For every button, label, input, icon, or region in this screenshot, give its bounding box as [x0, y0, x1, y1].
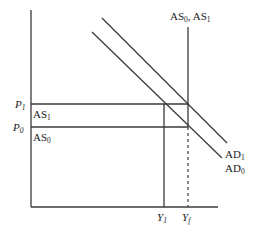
as0-label: AS0: [33, 131, 51, 145]
ad-as-diagram: P1 P0 AS1 AS0 AS0, AS1 AD1 AD0 Y1 Yf: [0, 0, 260, 234]
p1-label: P1: [14, 98, 25, 112]
ad0-label: AD0: [225, 162, 245, 176]
ad0-curve: [92, 32, 222, 158]
p0-label: P0: [12, 121, 24, 135]
yf-label: Yf: [182, 211, 191, 225]
as1-label: AS1: [33, 108, 51, 122]
ad1-label: AD1: [225, 148, 245, 162]
long-run-as-label: AS0, AS1: [170, 10, 211, 24]
y1-label: Y1: [157, 211, 167, 225]
